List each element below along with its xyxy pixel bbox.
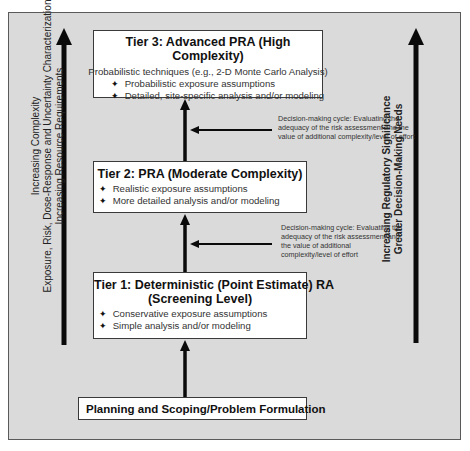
planning-title: Planning and Scoping/Problem Formulation	[86, 402, 306, 416]
bullet-star-icon: ✦	[96, 183, 110, 195]
bullet-star-icon: ✦	[96, 195, 110, 207]
tier2-box: Tier 2: PRA (Moderate Complexity) ✦ Real…	[93, 161, 307, 213]
tier3-box: Tier 3: Advanced PRA (High Complexity) P…	[93, 30, 323, 98]
list-item: ✦ Simple analysis and/or modeling	[96, 320, 306, 332]
planning-box: Planning and Scoping/Problem Formulation	[78, 397, 307, 420]
tier2-title: Tier 2: PRA (Moderate Complexity)	[94, 167, 306, 181]
list-item: ✦ Detailed, site-specific analysis and/o…	[108, 90, 322, 102]
right-axis-arrow	[408, 28, 424, 343]
tier3-subtitle: Probabilistic techniques (e.g., 2-D Mont…	[88, 66, 328, 78]
bullet-star-icon: ✦	[108, 90, 122, 102]
right-axis-label: Increasing Regulatory Significance Great…	[381, 79, 409, 279]
left-axis-line1: Increasing Complexity	[30, 0, 42, 296]
tier2-bullets: ✦ Realistic exposure assumptions ✦ More …	[94, 183, 306, 207]
tier1-title-line2: (Screening Level)	[94, 292, 306, 306]
list-item: ✦ Probabilistic exposure assumptions	[108, 78, 322, 90]
left-axis-line3: Increasing Resource Requirements	[54, 0, 66, 296]
bullet-star-icon: ✦	[96, 320, 110, 332]
list-item: ✦ More detailed analysis and/or modeling	[96, 195, 306, 207]
tier1-box: Tier 1: Deterministic (Point Estimate) R…	[93, 272, 307, 339]
right-axis-line2: Greater Decision-Making Needs	[393, 79, 405, 279]
arrow-planning-to-tier1	[180, 340, 190, 397]
arrow-tier2-to-tier3	[180, 99, 190, 161]
list-item: ✦ Realistic exposure assumptions	[96, 183, 306, 195]
tier3-title: Tier 3: Advanced PRA (High Complexity)	[94, 35, 322, 63]
decision-arrow-upper	[190, 126, 272, 134]
arrow-tier1-to-tier2	[180, 214, 190, 272]
bullet-star-icon: ✦	[96, 308, 110, 320]
tier1-title-line1: Tier 1: Deterministic (Point Estimate) R…	[94, 278, 306, 292]
list-item: ✦ Conservative exposure assumptions	[96, 308, 306, 320]
tier3-bullets: ✦ Probabilistic exposure assumptions ✦ D…	[94, 78, 322, 102]
left-axis-label: Increasing Complexity Exposure, Risk, Do…	[30, 0, 70, 296]
decision-arrow-lower	[190, 240, 272, 248]
right-axis-line1: Increasing Regulatory Significance	[381, 79, 393, 279]
bullet-star-icon: ✦	[108, 78, 122, 90]
tier1-bullets: ✦ Conservative exposure assumptions ✦ Si…	[94, 308, 306, 332]
left-axis-line2: Exposure, Risk, Dose-Response and Uncert…	[42, 0, 54, 296]
